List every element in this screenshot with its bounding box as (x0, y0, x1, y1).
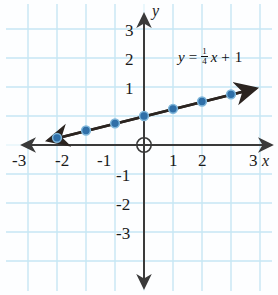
data-point (111, 119, 120, 128)
equation-fraction: 1 4 (201, 47, 208, 67)
coordinate-graph: -3 -2 -1 1 2 3 3 2 1 -1 -2 -3 x y y = 1 … (0, 0, 278, 295)
fraction-denominator: 4 (201, 56, 208, 66)
equation-variable: x (211, 49, 218, 66)
x-axis-label: x (262, 153, 269, 169)
x-tick-label-3: 3 (249, 152, 258, 169)
x-tick-label--1: -1 (97, 152, 111, 169)
data-point (198, 97, 207, 106)
data-point (227, 90, 236, 99)
data-point (53, 133, 62, 142)
equation-lhs: y (178, 49, 185, 66)
data-point (169, 104, 178, 113)
x-tick-label--2: -2 (55, 152, 69, 169)
equation-label: y = 1 4 x + 1 (178, 48, 243, 68)
y-tick-label-2: 2 (125, 51, 134, 68)
y-tick-label--3: -3 (116, 225, 130, 242)
data-point (82, 126, 91, 135)
graph-canvas (0, 0, 278, 295)
data-point (140, 112, 149, 121)
y-tick-label--2: -2 (116, 196, 130, 213)
fraction-numerator: 1 (201, 47, 208, 56)
y-tick-label-1: 1 (125, 80, 134, 97)
equation-plus: + (221, 49, 229, 66)
x-tick-label-2: 2 (198, 152, 207, 169)
x-tick-label--3: -3 (12, 152, 26, 169)
equation-constant: 1 (235, 49, 243, 66)
function-line (48, 88, 256, 140)
y-tick-label--1: -1 (116, 167, 130, 184)
x-tick-label-1: 1 (169, 152, 178, 169)
y-tick-label-3: 3 (125, 22, 134, 39)
y-axis-label: y (152, 3, 159, 19)
equation-equals: = (189, 49, 197, 66)
